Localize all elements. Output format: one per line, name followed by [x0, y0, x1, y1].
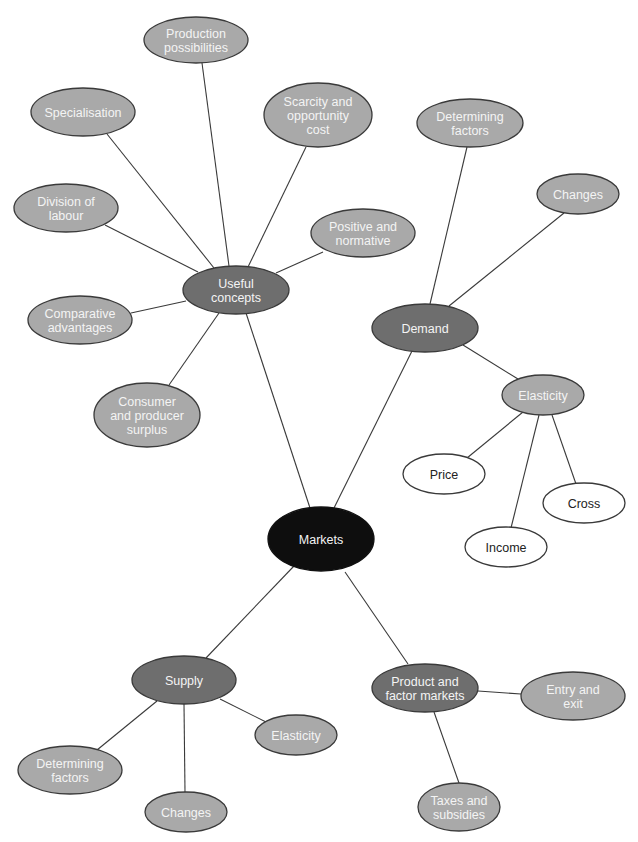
node-label: Determining — [436, 110, 503, 124]
node-scarcity-opportunity-cost: Scarcity andopportunitycost — [264, 83, 372, 147]
node-label: Positive and — [329, 220, 397, 234]
node-label: Division of — [37, 195, 95, 209]
node-label: surplus — [127, 423, 167, 437]
link-supply-to-supply-determining-factors — [97, 701, 157, 750]
link-demand-elasticity-to-cross — [552, 415, 576, 484]
link-product-factor-markets-to-taxes-subsidies — [434, 712, 459, 783]
link-supply-to-supply-elasticity — [220, 699, 266, 722]
node-label: Supply — [165, 674, 204, 688]
node-demand-determining-factors: Determiningfactors — [417, 99, 523, 147]
node-label: Cross — [568, 497, 601, 511]
link-useful-concepts-to-scarcity-opportunity-cost — [248, 147, 306, 267]
node-product-factor-markets: Product andfactor markets — [372, 664, 478, 712]
node-label: Specialisation — [44, 106, 121, 120]
node-label: Entry and — [546, 683, 600, 697]
link-useful-concepts-to-specialisation — [107, 134, 214, 268]
node-production-possibilities: Productionpossibilities — [144, 17, 248, 63]
node-label: Elasticity — [271, 729, 321, 743]
node-label: Useful — [218, 277, 253, 291]
node-label: Consumer — [118, 395, 176, 409]
node-label: Product and — [391, 675, 458, 689]
node-label: Taxes and — [431, 794, 488, 808]
link-useful-concepts-to-production-possibilities — [202, 63, 229, 266]
link-demand-elasticity-to-income — [511, 415, 539, 528]
node-label: Markets — [299, 533, 343, 547]
link-product-factor-markets-to-entry-exit — [478, 691, 521, 694]
link-markets-to-demand — [334, 351, 412, 508]
node-demand-changes: Changes — [537, 174, 619, 214]
link-supply-to-supply-changes — [184, 704, 185, 792]
link-markets-to-useful-concepts — [246, 313, 310, 508]
node-demand: Demand — [372, 304, 478, 352]
node-label: subsidies — [433, 808, 485, 822]
node-useful-concepts: Usefulconcepts — [183, 266, 289, 314]
node-label: factors — [451, 124, 489, 138]
node-label: Determining — [36, 757, 103, 771]
node-label: Changes — [161, 806, 211, 820]
node-label: factors — [51, 771, 89, 785]
link-useful-concepts-to-comparative-advantages — [131, 301, 186, 313]
link-demand-to-demand-determining-factors — [430, 147, 467, 304]
node-label: factor markets — [385, 689, 464, 703]
node-comparative-advantages: Comparativeadvantages — [28, 296, 132, 344]
node-label: Production — [166, 27, 226, 41]
link-demand-to-demand-elasticity — [463, 345, 518, 379]
mind-map-diagram: MarketsUsefulconceptsDemandSupplyProduct… — [0, 0, 638, 842]
node-supply-elasticity: Elasticity — [255, 715, 337, 755]
node-demand-elasticity: Elasticity — [502, 375, 584, 415]
node-supply: Supply — [132, 656, 236, 704]
node-supply-determining-factors: Determiningfactors — [18, 746, 122, 794]
node-income: Income — [465, 527, 547, 567]
node-label: advantages — [48, 321, 113, 335]
link-useful-concepts-to-positive-normative — [276, 252, 323, 273]
node-label: Demand — [401, 322, 448, 336]
link-markets-to-product-factor-markets — [345, 572, 408, 664]
node-label: Changes — [553, 188, 603, 202]
link-demand-to-demand-changes — [449, 213, 564, 306]
node-label: and producer — [110, 409, 184, 423]
node-label: Scarcity and — [284, 95, 353, 109]
node-specialisation: Specialisation — [31, 88, 135, 136]
node-taxes-subsidies: Taxes andsubsidies — [418, 783, 500, 831]
node-price: Price — [403, 454, 485, 494]
link-demand-elasticity-to-price — [467, 412, 523, 458]
link-useful-concepts-to-division-of-labour — [105, 225, 198, 272]
node-label: cost — [307, 123, 330, 137]
node-markets: Markets — [268, 507, 374, 571]
node-supply-changes: Changes — [145, 792, 227, 832]
node-label: possibilities — [164, 41, 228, 55]
node-label: opportunity — [287, 109, 350, 123]
node-entry-exit: Entry andexit — [521, 672, 625, 720]
node-consumer-producer-surplus: Consumerand producersurplus — [94, 383, 200, 447]
node-label: normative — [336, 234, 391, 248]
concept-nodes: MarketsUsefulconceptsDemandSupplyProduct… — [14, 17, 625, 832]
node-label: Price — [430, 468, 459, 482]
node-label: Elasticity — [518, 389, 568, 403]
link-markets-to-supply — [206, 566, 294, 658]
node-label: concepts — [211, 291, 261, 305]
node-division-of-labour: Division oflabour — [14, 184, 118, 232]
node-label: Comparative — [45, 307, 116, 321]
node-positive-normative: Positive andnormative — [311, 209, 415, 257]
link-useful-concepts-to-consumer-producer-surplus — [169, 313, 219, 385]
node-label: exit — [563, 697, 583, 711]
node-label: labour — [49, 209, 84, 223]
node-cross: Cross — [543, 483, 625, 523]
node-label: Income — [486, 541, 527, 555]
